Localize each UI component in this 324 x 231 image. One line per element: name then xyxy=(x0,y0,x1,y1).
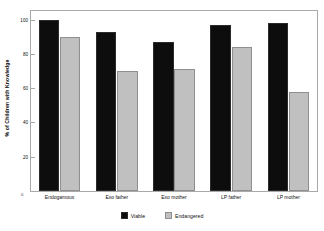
x-axis-tick-label: Exo mother xyxy=(161,194,187,200)
x-axis-tick-label: Exo father xyxy=(105,194,128,200)
legend-swatch-icon xyxy=(165,212,172,219)
bar xyxy=(174,69,194,191)
bar xyxy=(268,23,288,191)
y-axis-tick-label: 60 xyxy=(23,86,28,91)
bar xyxy=(96,32,116,191)
legend-entry[interactable]: Viable xyxy=(121,212,145,219)
y-axis-title-text: % of Children with Knowledge xyxy=(4,59,10,136)
bar xyxy=(232,47,252,191)
x-axis-tick-labels: EndogamousExo fatherExo motherLP fatherL… xyxy=(30,194,318,206)
legend-label: Endangered xyxy=(175,213,203,219)
y-axis-tick-label: 40 xyxy=(23,120,28,125)
bar-group xyxy=(31,11,88,191)
bar xyxy=(153,42,173,191)
bar-chart: % of Children with Knowledge 20406080100… xyxy=(0,0,324,231)
y-axis-title: % of Children with Knowledge xyxy=(0,0,14,195)
bar-group xyxy=(88,11,145,191)
bar xyxy=(289,92,309,191)
x-axis-tick-label: LP father xyxy=(221,194,241,200)
y-axis-tick-label: 20 xyxy=(23,154,28,159)
y-axis-tick-label: 80 xyxy=(23,51,28,56)
bars-layer xyxy=(31,11,317,191)
legend-swatch-icon xyxy=(121,212,128,219)
bar xyxy=(117,71,137,191)
origin-zero-label: 0 xyxy=(21,192,23,197)
bar xyxy=(39,20,59,191)
x-axis-tick-label: Endogamous xyxy=(45,194,74,200)
bar-group xyxy=(145,11,202,191)
bar xyxy=(210,25,230,191)
y-axis-tick-label: 100 xyxy=(20,17,28,22)
x-axis-tick-label: LP mother xyxy=(277,194,300,200)
bar xyxy=(60,37,80,191)
bar-group xyxy=(260,11,317,191)
bar-group xyxy=(203,11,260,191)
chart-legend: ViableEndangered xyxy=(0,212,324,219)
y-axis-tick-labels: 20406080100 xyxy=(14,0,30,200)
legend-entry[interactable]: Endangered xyxy=(165,212,203,219)
legend-label: Viable xyxy=(131,213,145,219)
